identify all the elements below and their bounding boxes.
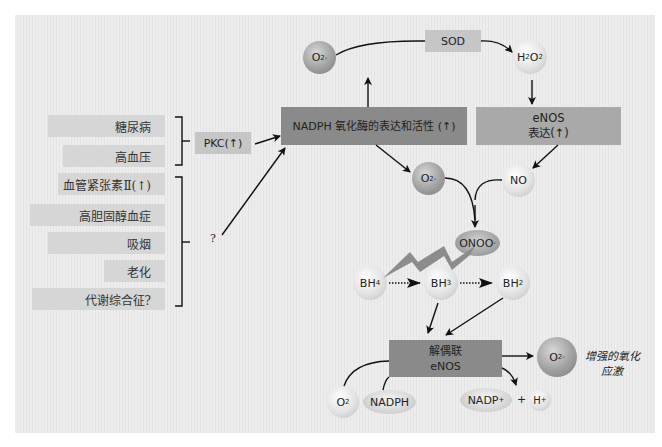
bracket-unknown bbox=[175, 177, 190, 306]
lightning-bolt-icon bbox=[383, 246, 475, 278]
bracket-pkc bbox=[175, 117, 190, 165]
connector-layer bbox=[0, 0, 662, 447]
